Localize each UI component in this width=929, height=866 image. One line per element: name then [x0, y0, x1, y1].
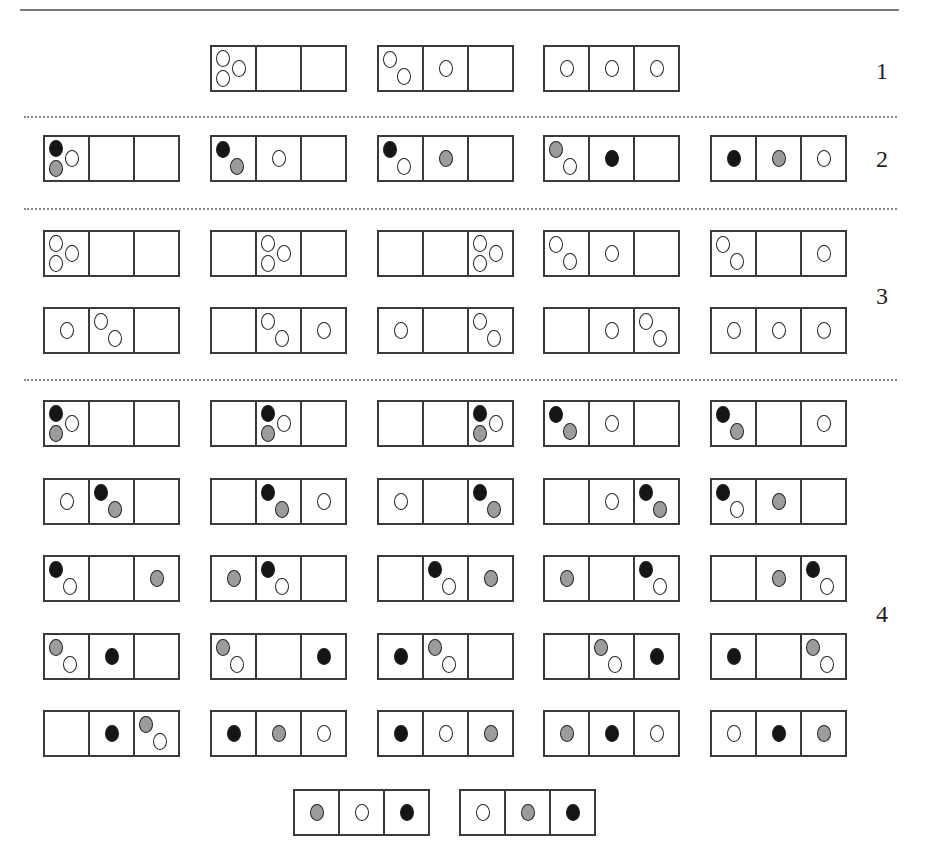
urn-cell	[45, 137, 88, 180]
white-ball-icon	[473, 255, 487, 272]
urn-cell	[133, 232, 178, 275]
white-ball-icon	[275, 578, 289, 595]
gray-ball-icon	[484, 570, 498, 587]
urn-cell	[588, 309, 633, 352]
urn-box-section-4	[210, 633, 347, 680]
urn-cell	[338, 791, 383, 834]
black-ball-icon	[49, 140, 63, 157]
urn-cell	[300, 137, 345, 180]
white-ball-icon	[772, 322, 786, 339]
white-ball-icon	[817, 415, 831, 432]
white-ball-icon	[439, 725, 453, 742]
section-number-label: 1	[876, 58, 888, 85]
white-ball-icon	[730, 253, 744, 270]
urn-cell	[212, 557, 255, 600]
urn-box-section-4	[210, 555, 347, 602]
white-ball-icon	[108, 330, 122, 347]
urn-cell	[755, 137, 800, 180]
white-ball-icon	[650, 60, 664, 77]
urn-cell	[545, 712, 588, 755]
urn-cell	[588, 712, 633, 755]
white-ball-icon	[63, 578, 77, 595]
urn-box-section-2	[210, 135, 347, 182]
urn-cell	[800, 137, 845, 180]
white-ball-icon	[216, 70, 230, 87]
white-ball-icon	[317, 493, 331, 510]
urn-cell	[467, 137, 512, 180]
urn-box-section-4	[377, 555, 514, 602]
urn-cell	[300, 232, 345, 275]
gray-ball-icon	[139, 716, 153, 733]
urn-box-section-2	[43, 135, 180, 182]
white-ball-icon	[605, 493, 619, 510]
white-ball-icon	[94, 313, 108, 330]
white-ball-icon	[820, 656, 834, 673]
urn-box-section-1	[543, 45, 680, 92]
white-ball-icon	[317, 322, 331, 339]
black-ball-icon	[605, 150, 619, 167]
gray-ball-icon	[261, 425, 275, 442]
urn-cell	[300, 402, 345, 445]
urn-cell	[300, 480, 345, 523]
urn-cell	[422, 232, 467, 275]
urn-cell	[300, 712, 345, 755]
white-ball-icon	[65, 150, 79, 167]
urn-box-section-2	[543, 135, 680, 182]
white-ball-icon	[473, 313, 487, 330]
urn-cell	[545, 557, 588, 600]
white-ball-icon	[727, 322, 741, 339]
urn-cell	[588, 137, 633, 180]
black-ball-icon	[383, 141, 397, 158]
gray-ball-icon	[560, 725, 574, 742]
urn-cell	[212, 309, 255, 352]
gray-ball-icon	[817, 725, 831, 742]
urn-box-section-3	[710, 307, 847, 354]
urn-box-section-4	[710, 710, 847, 757]
black-ball-icon	[394, 725, 408, 742]
white-ball-icon	[394, 322, 408, 339]
black-ball-icon	[566, 804, 580, 821]
urn-box-section-3	[43, 230, 180, 277]
urn-box-section-3	[710, 230, 847, 277]
gray-ball-icon	[49, 639, 63, 656]
urn-cell	[45, 557, 88, 600]
white-ball-icon	[442, 578, 456, 595]
white-ball-icon	[730, 501, 744, 518]
urn-cell	[255, 557, 300, 600]
white-ball-icon	[355, 804, 369, 821]
urn-cell	[255, 635, 300, 678]
gray-ball-icon	[521, 804, 535, 821]
dotted-separator	[24, 379, 897, 381]
urn-cell	[212, 480, 255, 523]
urn-cell	[467, 47, 512, 90]
gray-ball-icon	[428, 639, 442, 656]
black-ball-icon	[428, 561, 442, 578]
urn-cell	[712, 480, 755, 523]
urn-cell	[588, 232, 633, 275]
urn-cell	[545, 137, 588, 180]
white-ball-icon	[487, 330, 501, 347]
urn-box-section-1	[377, 45, 514, 92]
black-ball-icon	[549, 406, 563, 423]
urn-cell	[545, 47, 588, 90]
urn-box-section-2	[377, 135, 514, 182]
header-rule	[20, 9, 899, 11]
urn-cell	[800, 635, 845, 678]
urn-cell	[800, 232, 845, 275]
black-ball-icon	[400, 804, 414, 821]
urn-cell	[545, 635, 588, 678]
urn-cell	[255, 232, 300, 275]
white-ball-icon	[442, 656, 456, 673]
gray-ball-icon	[549, 141, 563, 158]
white-ball-icon	[639, 313, 653, 330]
urn-box-section-3	[543, 230, 680, 277]
section-number-label: 3	[876, 283, 888, 310]
white-ball-icon	[261, 313, 275, 330]
urn-cell	[422, 557, 467, 600]
urn-cell	[379, 635, 422, 678]
gray-ball-icon	[594, 639, 608, 656]
white-ball-icon	[397, 158, 411, 175]
white-ball-icon	[608, 656, 622, 673]
urn-cell	[133, 402, 178, 445]
gray-ball-icon	[216, 639, 230, 656]
